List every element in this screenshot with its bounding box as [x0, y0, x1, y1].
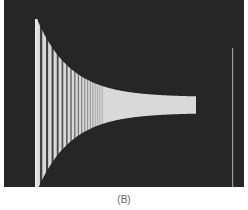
decay-envelope	[37, 19, 196, 187]
cycle-gap	[78, 73, 79, 137]
cycle-gap	[103, 85, 104, 125]
initial-spike	[35, 19, 38, 187]
cycle-gap	[81, 75, 82, 135]
cycle-gap	[62, 59, 64, 152]
cycle-gap	[99, 84, 100, 126]
cycle-gap	[74, 70, 75, 139]
cycle-gap	[92, 81, 93, 129]
cycle-gap	[101, 84, 102, 125]
cycle-gap	[90, 80, 91, 130]
cycle-gap	[40, 25, 42, 186]
cycle-gap	[46, 36, 48, 173]
cycle-gap	[97, 83, 98, 127]
cycle-gap	[52, 46, 54, 165]
cycle-gap	[84, 77, 85, 133]
marker-line	[232, 48, 233, 187]
cycle-gap	[95, 82, 96, 128]
oscilloscope-photo	[4, 0, 244, 187]
cycle-gap	[87, 79, 88, 132]
damped-oscillation-trace	[4, 0, 244, 187]
figure-caption: (B)	[0, 194, 248, 205]
cycle-gap	[70, 67, 71, 143]
cycle-gap	[66, 63, 68, 146]
cycle-gap	[57, 53, 59, 157]
